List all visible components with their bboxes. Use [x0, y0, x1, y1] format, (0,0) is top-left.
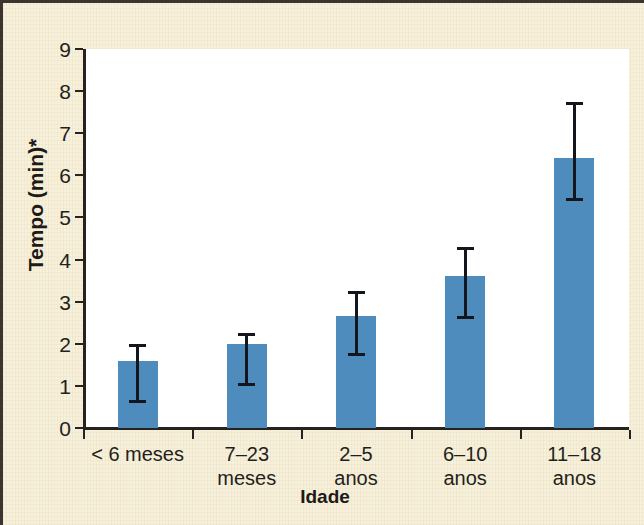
error-bar-cap-lower: [348, 353, 365, 356]
y-tick-mark: [75, 216, 83, 218]
y-tick-label: 0: [45, 418, 71, 439]
x-category-label: 11–18 anos: [520, 443, 629, 490]
error-bar-cap-upper: [348, 291, 365, 294]
error-bar-cap-upper: [129, 344, 146, 347]
y-tick-label: 1: [45, 375, 71, 396]
x-tick-mark: [520, 430, 522, 439]
error-bar-line: [464, 247, 467, 319]
y-tick-mark: [75, 343, 83, 345]
error-bar-cap-lower: [129, 400, 146, 403]
x-category-label: 7–23 meses: [192, 443, 301, 490]
y-tick-mark: [75, 132, 83, 134]
x-tick-mark: [411, 430, 413, 439]
x-category-label: 6–10 anos: [411, 443, 520, 490]
y-tick-mark: [75, 301, 83, 303]
x-tick-mark: [192, 430, 194, 439]
error-bar-cap-lower: [457, 316, 474, 319]
y-tick-mark: [75, 259, 83, 261]
error-bar-cap-upper: [566, 102, 583, 105]
error-bar-line: [136, 344, 139, 403]
x-tick-mark: [629, 430, 631, 439]
y-tick-label: 7: [45, 123, 71, 144]
y-tick-mark: [75, 90, 83, 92]
y-tick-label: 8: [45, 81, 71, 102]
y-axis-title: Tempo (min)*: [24, 110, 48, 300]
x-axis-title: Idade: [3, 486, 644, 508]
y-tick-mark: [75, 427, 83, 429]
error-bar-cap-upper: [238, 333, 255, 336]
error-bar-cap-lower: [238, 383, 255, 386]
y-axis-line: [83, 49, 86, 430]
error-bar-line: [245, 333, 248, 386]
x-category-label: < 6 meses: [83, 443, 192, 467]
y-tick-label: 5: [45, 207, 71, 228]
y-tick-label: 6: [45, 165, 71, 186]
figure-panel: 0123456789 < 6 meses7–23 meses2–5 anos6–…: [0, 0, 644, 525]
y-tick-label: 4: [45, 249, 71, 270]
y-tick-mark: [75, 48, 83, 50]
y-tick-mark: [75, 385, 83, 387]
error-bar-line: [573, 102, 576, 201]
error-bar-cap-lower: [566, 198, 583, 201]
y-tick-label: 9: [45, 39, 71, 60]
x-tick-mark: [83, 430, 85, 439]
y-tick-label: 2: [45, 333, 71, 354]
y-tick-label: 3: [45, 291, 71, 312]
error-bar-line: [355, 291, 358, 356]
x-tick-mark: [301, 430, 303, 439]
error-bar-cap-upper: [457, 247, 474, 250]
y-tick-mark: [75, 174, 83, 176]
x-category-label: 2–5 anos: [301, 443, 410, 490]
